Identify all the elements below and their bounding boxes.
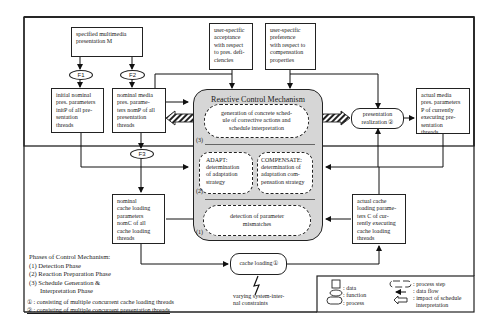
- step-line: detection of parameter: [230, 213, 284, 220]
- phases-heading: Phases of Control Mechanism:: [29, 253, 111, 262]
- box-line: sentation: [421, 122, 465, 129]
- user-acceptance-box: user-specific acceptance with respect to…: [209, 23, 253, 70]
- process-step-compensate: COMPENSATE: determination of adaptation …: [257, 152, 313, 194]
- box-line: ters C of cur-: [357, 213, 401, 220]
- process-step-detection: detection of parameter mismatches: [203, 205, 311, 236]
- actual-cache-box: actual cache loading parame- ters C of c…: [352, 194, 406, 244]
- step-line: COMPENSATE:: [261, 157, 309, 164]
- box-line: nomC of all: [117, 220, 160, 227]
- box-line: nominal: [117, 198, 160, 205]
- box-line: initial nominal: [56, 92, 99, 99]
- phase-item: (3) Schedule Generation &: [29, 279, 111, 288]
- rcm-title: Reactive Control Mechanism: [194, 95, 322, 104]
- nominal-media-box: nominal media pres. parame- ters nomP of…: [112, 88, 166, 133]
- function-f1: F1: [69, 70, 93, 80]
- box-line: properties: [270, 57, 311, 64]
- box-line: executing pre-: [421, 114, 465, 121]
- phase-marker-2: (2): [196, 188, 203, 194]
- actual-media-box: actual media pres. parameters P of curre…: [416, 88, 470, 134]
- nominal-cache-box: nominal cache loading parameters nomC of…: [112, 194, 165, 244]
- box-line: nominal media: [117, 92, 161, 99]
- box-line: actual media: [421, 92, 465, 99]
- box-line: initP of all pre-: [56, 107, 99, 114]
- phase-separator: [205, 144, 315, 145]
- phase-marker-3: (3): [196, 137, 203, 143]
- legend-process-icon: [327, 297, 342, 304]
- box-line: parameters: [117, 213, 160, 220]
- function-f3: F3: [130, 149, 154, 159]
- function-label: F2: [129, 72, 136, 78]
- step-line: schedule interpretation: [221, 125, 292, 132]
- function-label: F1: [77, 72, 84, 78]
- box-line: threads: [117, 235, 160, 242]
- step-line: determination: [206, 164, 246, 171]
- box-line: rently executing: [357, 220, 401, 227]
- box-line: user-specific: [214, 27, 248, 34]
- phase-separator: [205, 199, 315, 200]
- step-line: ADAPT:: [206, 157, 246, 164]
- legend-process-label: : process: [343, 300, 364, 307]
- box-line: acceptance: [214, 34, 248, 41]
- box-line: to pres. defi-: [214, 49, 248, 56]
- note-presentation-threads: ② : consisting of multiple concurrent pr…: [27, 306, 170, 313]
- presentation-realization-process: presentation realization ②: [351, 108, 404, 129]
- box-line: compensation: [270, 49, 311, 56]
- box-line: pres. parameters: [421, 99, 465, 106]
- phase-item: (1) Detection Phase: [29, 262, 111, 271]
- legend-data-icon: [332, 280, 340, 288]
- initial-nominal-box: initial nominal pres. parameters initP o…: [51, 88, 104, 133]
- box-line: pres. parame-: [117, 99, 161, 106]
- phase-marker-1: (1): [196, 229, 203, 235]
- box-line: cache loading: [357, 228, 401, 235]
- box-line: actual cache: [357, 198, 401, 205]
- box-line: threads: [117, 122, 161, 129]
- box-line: ciencies: [214, 57, 248, 64]
- box-line: loading parame-: [357, 205, 401, 212]
- box-line: with respect to: [270, 42, 311, 49]
- box-line: P of currently: [421, 107, 465, 114]
- process-step-generation: generation of concrete sched- ule of cor…: [204, 104, 309, 138]
- constraints-line: nal constraints: [233, 300, 284, 307]
- note-cache-threads: ① : consisting of multiple concurrent ca…: [27, 298, 174, 305]
- function-f2: F2: [120, 70, 145, 80]
- box-line: threads: [56, 122, 99, 129]
- process-label: cache loading①: [239, 260, 277, 267]
- function-label: F3: [138, 151, 145, 157]
- box-line: sentation: [56, 114, 99, 121]
- box-line: threads: [421, 129, 465, 136]
- box-line: threads: [357, 235, 401, 242]
- user-preference-box: user-specific preference with respect to…: [265, 23, 316, 70]
- constraints-line: varying system-inter-: [233, 293, 284, 300]
- specified-presentation-box: specified multimedia presentation M: [71, 27, 143, 57]
- process-label: presentation realization ②: [358, 111, 398, 126]
- step-line: of adaptation: [206, 171, 246, 178]
- box-line: cache loading: [117, 228, 160, 235]
- step-line: mismatches: [230, 221, 284, 228]
- step-line: strategy: [206, 179, 246, 186]
- legend-process-step-icon: [390, 281, 411, 287]
- box-line: presentation M: [76, 38, 138, 45]
- box-line: pres. parameters: [56, 99, 99, 106]
- step-line: generation of concrete sched-: [221, 110, 292, 117]
- phase-item: Interpretation Phase: [29, 287, 111, 296]
- legend-function-icon: [330, 290, 342, 296]
- cache-loading-process: cache loading①: [230, 253, 287, 275]
- process-step-adapt: ADAPT: determination of adaptation strat…: [199, 152, 253, 194]
- step-line: adaptation com-: [261, 171, 309, 178]
- legend-impact-label-2: interpretation: [416, 302, 448, 309]
- box-line: presentation: [117, 114, 161, 121]
- box-line: cache loading: [117, 205, 160, 212]
- box-line: user-specific: [270, 27, 311, 34]
- step-line: determination of: [261, 164, 309, 171]
- box-line: preference: [270, 34, 311, 41]
- box-line: with respect: [214, 42, 248, 49]
- legend-function-label: : function: [343, 292, 366, 299]
- box-line: specified multimedia: [76, 31, 138, 38]
- step-line: ule of corrective actions and: [221, 117, 292, 124]
- phases-legend: Phases of Control Mechanism: (1) Detecti…: [29, 253, 111, 296]
- constraints-label: varying system-inter- nal constraints: [233, 293, 284, 307]
- step-line: pensation strategy: [261, 179, 309, 186]
- phase-item: (2) Reaction Preparation Phase: [29, 270, 111, 279]
- box-line: ters nomP of all: [117, 107, 161, 114]
